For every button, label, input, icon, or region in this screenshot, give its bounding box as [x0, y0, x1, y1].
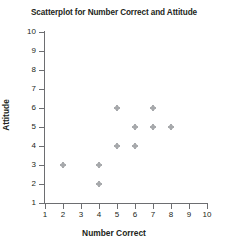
y-tick-mark — [39, 146, 44, 147]
data-point — [169, 125, 173, 129]
data-point — [61, 163, 65, 167]
x-axis-line — [44, 203, 208, 204]
y-tick-label: 9 — [14, 47, 36, 55]
x-tick-label: 1 — [35, 211, 55, 219]
y-tick-mark — [39, 127, 44, 128]
y-tick-label: 3 — [14, 161, 36, 169]
y-tick-mark — [39, 32, 44, 33]
data-point — [151, 125, 155, 129]
x-tick-label: 8 — [161, 211, 181, 219]
x-tick-mark — [207, 204, 208, 209]
y-tick-mark — [39, 184, 44, 185]
y-tick-label: 2 — [14, 180, 36, 188]
x-tick-mark — [153, 204, 154, 209]
y-tick-label: 1 — [14, 199, 36, 207]
y-tick-mark — [39, 51, 44, 52]
y-axis-line — [44, 31, 45, 204]
y-tick-label: 6 — [14, 104, 36, 112]
scatterplot-figure: Scatterplot for Number Correct and Attit… — [0, 0, 228, 252]
x-tick-mark — [63, 204, 64, 209]
y-tick-mark — [39, 165, 44, 166]
data-point — [97, 182, 101, 186]
y-tick-label: 10 — [14, 28, 36, 36]
x-tick-mark — [135, 204, 136, 209]
x-tick-label: 10 — [197, 211, 217, 219]
x-tick-label: 2 — [53, 211, 73, 219]
x-tick-mark — [117, 204, 118, 209]
x-tick-label: 6 — [125, 211, 145, 219]
x-tick-label: 7 — [143, 211, 163, 219]
y-tick-label: 8 — [14, 66, 36, 74]
y-tick-mark — [39, 108, 44, 109]
y-tick-label: 5 — [14, 123, 36, 131]
x-tick-label: 4 — [89, 211, 109, 219]
data-point — [97, 163, 101, 167]
x-axis-title: Number Correct — [0, 228, 228, 238]
data-point — [115, 106, 119, 110]
x-tick-label: 9 — [179, 211, 199, 219]
data-point — [115, 144, 119, 148]
x-tick-mark — [81, 204, 82, 209]
x-tick-mark — [171, 204, 172, 209]
y-tick-mark — [39, 203, 44, 204]
data-point — [133, 125, 137, 129]
y-tick-mark — [39, 89, 44, 90]
chart-title: Scatterplot for Number Correct and Attit… — [0, 8, 228, 17]
x-tick-mark — [45, 204, 46, 209]
y-tick-mark — [39, 70, 44, 71]
x-tick-label: 5 — [107, 211, 127, 219]
y-tick-label: 4 — [14, 142, 36, 150]
data-point — [151, 106, 155, 110]
y-tick-label: 7 — [14, 85, 36, 93]
y-axis-title: Attitude — [1, 80, 11, 150]
x-tick-label: 3 — [71, 211, 91, 219]
x-tick-mark — [99, 204, 100, 209]
x-tick-mark — [189, 204, 190, 209]
data-point — [133, 144, 137, 148]
